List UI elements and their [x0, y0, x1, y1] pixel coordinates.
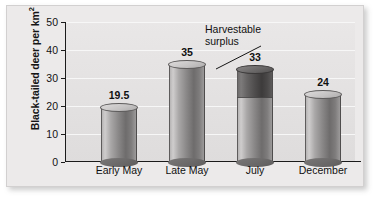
y-axis-tick-mark	[61, 162, 65, 163]
chart-card: Black-tailed deer per km2 01020304050 19…	[6, 5, 364, 187]
value-label: 24	[317, 76, 329, 88]
y-axis-tick-label: 30	[46, 72, 58, 84]
bar-body-lower	[169, 64, 205, 162]
gridline	[65, 78, 355, 79]
gridline	[65, 50, 355, 51]
bar-segment-seam	[237, 97, 273, 98]
bar-body-lower	[237, 98, 273, 162]
bar-july[interactable]	[237, 70, 273, 162]
y-axis-tick-label: 10	[46, 128, 58, 140]
bar-late-may[interactable]	[169, 64, 205, 162]
y-axis-title-superscript: 2	[27, 7, 36, 11]
y-axis-title: Black-tailed deer per km2	[27, 0, 41, 144]
value-label: 33	[249, 51, 261, 63]
category-label: December	[299, 164, 347, 176]
bar-december[interactable]	[305, 95, 341, 162]
category-label: Early May	[96, 164, 143, 176]
y-axis-title-text: Black-tailed deer per km	[29, 11, 41, 130]
bar-early-may[interactable]	[101, 107, 137, 162]
annotation-harvestable-surplus: Harvestable surplus	[205, 24, 261, 47]
y-axis-tick-label: 0	[52, 156, 58, 168]
value-label: 35	[181, 46, 193, 58]
bar-body-lower	[305, 95, 341, 162]
y-axis-tick-label: 40	[46, 44, 58, 56]
y-axis-line	[65, 22, 66, 162]
category-label: Late May	[165, 164, 208, 176]
value-label: 19.5	[109, 89, 129, 101]
y-axis-tick-label: 50	[46, 16, 58, 28]
figure: Black-tailed deer per km2 01020304050 19…	[0, 0, 380, 200]
bar-top-ellipse	[168, 60, 206, 69]
annotation-line-2: surplus	[205, 36, 261, 48]
bar-top-ellipse	[100, 103, 138, 112]
y-axis-tick-label: 20	[46, 100, 58, 112]
category-label: July	[246, 164, 265, 176]
annotation-line-1: Harvestable	[205, 24, 261, 36]
bar-body-lower	[101, 107, 137, 162]
